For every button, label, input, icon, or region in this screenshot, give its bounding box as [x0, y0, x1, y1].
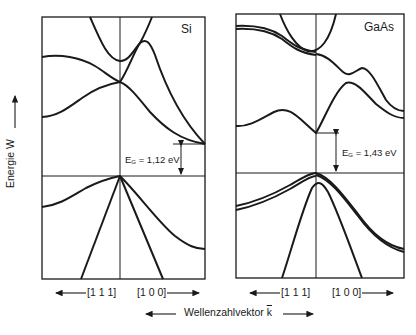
gaas-left-direction: [1 1 1] [281, 286, 310, 298]
si-title: Si [181, 22, 192, 36]
y-axis-label: Energie W [4, 139, 16, 188]
k-vector-symbol: k [267, 306, 272, 318]
x-axis-label: Wellenzahlvektor k [184, 306, 272, 318]
gaas-right-direction: [1 0 0] [332, 286, 361, 298]
gaas-title: GaAs [364, 20, 394, 34]
gaas-valence-bands [236, 173, 404, 278]
si-panel [42, 17, 205, 279]
gaas-gap-label: EG = 1,43 eV [342, 147, 397, 158]
si-conduction-bands [42, 17, 205, 144]
direction-arrows [15, 96, 393, 314]
band-structure-figure: Si GaAs EG = 1,12 eV EG = 1,43 eV [1 1 1… [0, 0, 416, 335]
si-valence-bands [42, 176, 205, 279]
gaas-panel [236, 14, 404, 278]
si-right-direction: [1 0 0] [137, 286, 166, 298]
si-gap-label: EG = 1,12 eV [125, 154, 180, 165]
si-left-direction: [1 1 1] [87, 286, 116, 298]
